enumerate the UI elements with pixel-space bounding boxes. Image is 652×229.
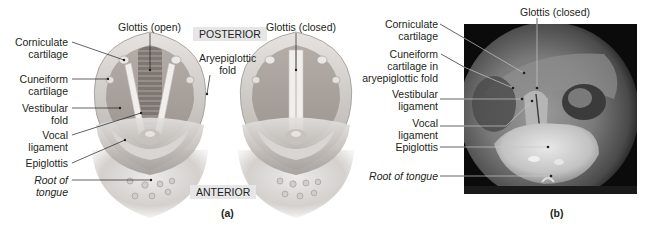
label-line: fold <box>199 64 256 76</box>
label-line: Corniculate <box>15 36 68 48</box>
label-line: ligament <box>392 100 438 112</box>
label-line: Vocal <box>398 117 438 129</box>
label-cuneiform-cartilage-b: Cuneiform cartilage in aryepiglottic fol… <box>362 48 438 84</box>
label-glottis-open: Glottis (open) <box>118 21 181 33</box>
label-line: aryepiglottic fold <box>362 72 438 84</box>
label-line: Vocal <box>28 129 68 141</box>
label-glottis-closed-a: Glottis (closed) <box>266 21 336 33</box>
caption-b: (b) <box>550 207 563 219</box>
label-aryepiglottic-fold: Aryepiglottic fold <box>199 52 256 76</box>
label-line: tongue <box>34 186 68 198</box>
label-line: Cuneiform <box>362 48 438 60</box>
label-vestibular-fold-a: Vestibular fold <box>22 102 68 126</box>
label-glottis-closed-b: Glottis (closed) <box>520 6 590 18</box>
orientation-anterior: ANTERIOR <box>190 185 256 199</box>
label-root-of-tongue-b: Root of tongue <box>369 170 438 182</box>
label-line: cartilage <box>385 30 438 42</box>
label-line: fold <box>22 114 68 126</box>
label-corniculate-cartilage-a: Corniculate cartilage <box>15 36 68 60</box>
orientation-posterior: POSTERIOR <box>193 27 267 41</box>
label-line: ligament <box>398 129 438 141</box>
label-line: Aryepiglottic <box>199 52 256 64</box>
label-line: Epiglottis <box>395 141 438 153</box>
label-vocal-ligament-a: Vocal ligament <box>28 129 68 153</box>
leader-lines-panel-b <box>0 0 652 229</box>
label-epiglottis-a: Epiglottis <box>25 157 68 169</box>
label-line: Root of tongue <box>369 170 438 182</box>
label-line: cartilage <box>15 48 68 60</box>
label-corniculate-cartilage-b: Corniculate cartilage <box>385 18 438 42</box>
label-line: cartilage <box>20 85 68 97</box>
label-line: Vestibular <box>392 88 438 100</box>
label-line: Root of <box>34 174 68 186</box>
label-line: Cuneiform <box>20 73 68 85</box>
label-cuneiform-cartilage-a: Cuneiform cartilage <box>20 73 68 97</box>
label-line: Corniculate <box>385 18 438 30</box>
label-epiglottis-b: Epiglottis <box>395 141 438 153</box>
label-line: Vestibular <box>22 102 68 114</box>
label-vestibular-ligament-b: Vestibular ligament <box>392 88 438 112</box>
label-vocal-ligament-b: Vocal ligament <box>398 117 438 141</box>
label-root-of-tongue-a: Root of tongue <box>34 174 68 198</box>
caption-a: (a) <box>221 207 234 219</box>
label-line: ligament <box>28 141 68 153</box>
label-line: cartilage in <box>362 60 438 72</box>
label-line: Epiglottis <box>25 157 68 169</box>
